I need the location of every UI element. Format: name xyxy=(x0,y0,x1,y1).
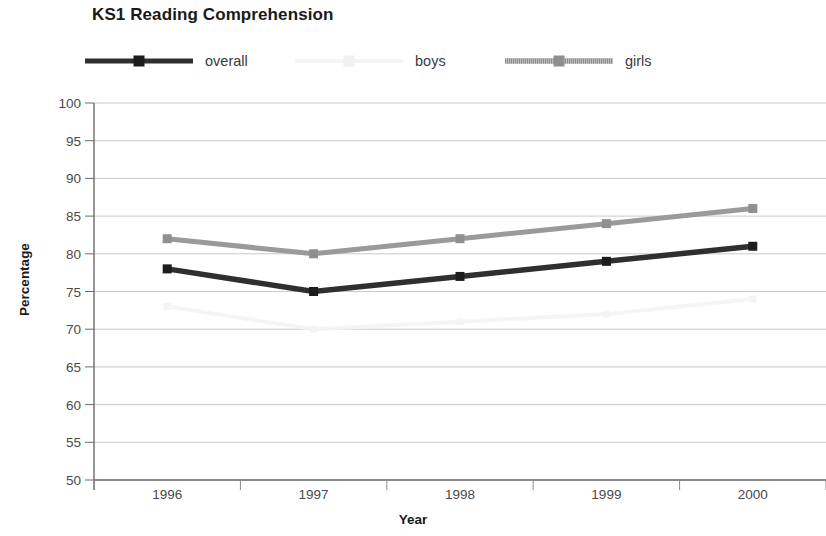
series-marker-boys xyxy=(603,311,610,318)
y-axis-tick-label: 75 xyxy=(37,284,81,299)
series-marker-girls xyxy=(456,234,465,243)
y-axis-tick-label: 60 xyxy=(37,397,81,412)
x-axis-tick-label: 1996 xyxy=(107,487,227,502)
series-marker-overall xyxy=(163,264,172,273)
x-axis-title: Year xyxy=(0,512,826,527)
y-axis-tick-label: 55 xyxy=(37,435,81,450)
y-axis-tick-label: 65 xyxy=(37,359,81,374)
series-line-overall xyxy=(167,246,753,291)
series-marker-girls xyxy=(602,219,611,228)
series-marker-boys xyxy=(749,296,756,303)
x-axis-tick-label: 1999 xyxy=(546,487,666,502)
plot-area xyxy=(0,0,826,536)
series-marker-boys xyxy=(457,318,464,325)
series-marker-overall xyxy=(602,257,611,266)
series-marker-girls xyxy=(748,204,757,213)
series-marker-overall xyxy=(456,272,465,281)
y-axis-title: Percentage xyxy=(17,230,32,330)
chart-figure: KS1 Reading Comprehension overall boys g… xyxy=(0,0,826,536)
series-marker-overall xyxy=(748,242,757,251)
y-axis-tick-label: 95 xyxy=(37,133,81,148)
series-marker-girls xyxy=(309,249,318,258)
y-axis-tick-label: 90 xyxy=(37,171,81,186)
series-line-girls xyxy=(167,209,753,254)
series-marker-overall xyxy=(309,287,318,296)
x-axis-tick-label: 1998 xyxy=(400,487,520,502)
x-axis-tick-label: 2000 xyxy=(693,487,813,502)
y-axis-tick-label: 80 xyxy=(37,246,81,261)
series-marker-boys xyxy=(164,303,171,310)
y-axis-tick-label: 100 xyxy=(37,96,81,111)
series-marker-girls xyxy=(163,234,172,243)
x-axis-tick-label: 1997 xyxy=(254,487,374,502)
series-marker-boys xyxy=(310,326,317,333)
y-axis-tick-label: 85 xyxy=(37,209,81,224)
y-axis-tick-label: 50 xyxy=(37,473,81,488)
y-axis-tick-label: 70 xyxy=(37,322,81,337)
